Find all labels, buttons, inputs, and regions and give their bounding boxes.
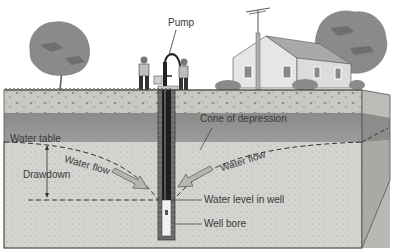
aquifer-diagram: [0, 0, 398, 251]
tree-left: [30, 22, 90, 90]
pump-and-people: [139, 30, 188, 90]
label-drawdown: Drawdown: [23, 170, 70, 180]
label-water-table: Water table: [10, 134, 61, 144]
ground-side-face: [362, 90, 390, 248]
label-cone-of-depression: Cone of depression: [200, 114, 287, 124]
label-well-bore: Well bore: [204, 219, 246, 229]
label-water-level-in-well: Water level in well: [204, 195, 284, 205]
label-pump: Pump: [168, 18, 194, 28]
